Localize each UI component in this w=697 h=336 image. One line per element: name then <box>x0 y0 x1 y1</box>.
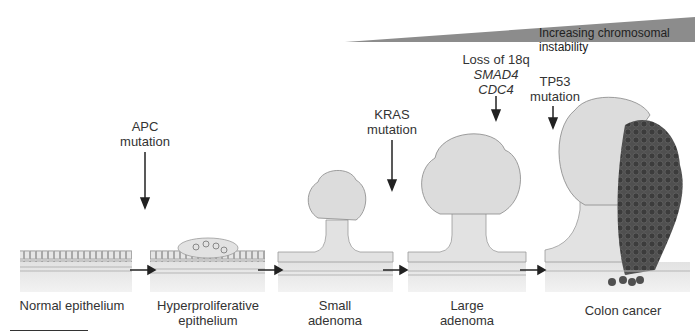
stage-label-large-adenoma: Large adenoma <box>427 298 507 328</box>
large-adenoma-graphic <box>408 134 526 292</box>
hyperproliferative-graphic <box>150 238 265 292</box>
mutation-18q-label: Loss of 18q <box>462 52 529 67</box>
stage-label-line: adenoma <box>440 313 494 328</box>
normal-epithelium-graphic <box>20 250 132 292</box>
mutation-apc: APC mutation <box>110 119 180 149</box>
mutation-tp53: TP53 mutation <box>520 74 590 104</box>
stage-label-colon-cancer: Colon cancer <box>568 303 678 318</box>
stage-label-small-adenoma: Small adenoma <box>295 298 375 328</box>
instability-label: Increasing chromosomal instability <box>539 26 697 54</box>
colorectal-cancer-progression-diagram: Increasing chromosomal instability APC m… <box>0 0 697 336</box>
stage-label-line: adenoma <box>308 313 362 328</box>
stage-label-hyperproliferative: Hyperproliferative epithelium <box>148 298 268 328</box>
stage-label-normal: Normal epithelium <box>12 298 132 313</box>
mutation-apc-gene: APC <box>132 119 159 134</box>
colon-cancer-graphic <box>545 97 690 292</box>
mutation-tp53-gene: TP53 <box>539 74 570 89</box>
mutation-kras-gene: KRAS <box>374 107 409 122</box>
footnote-rule <box>10 330 88 331</box>
mutation-tp53-label: mutation <box>530 89 580 104</box>
stage-label-line: Small <box>319 298 352 313</box>
small-adenoma-graphic <box>278 170 393 292</box>
mutation-kras-label: mutation <box>367 122 417 137</box>
stage-label-line: Hyperproliferative <box>157 298 259 313</box>
stage-label-line: epithelium <box>178 313 237 328</box>
stage-label-line: Large <box>450 298 483 313</box>
mutation-apc-label: mutation <box>120 134 170 149</box>
mutation-kras: KRAS mutation <box>357 107 427 137</box>
